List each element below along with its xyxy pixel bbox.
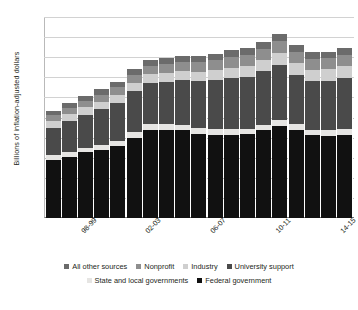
- x-axis-tick: [321, 219, 336, 259]
- legend-label: Industry: [191, 262, 217, 271]
- bar-segment: [289, 130, 304, 218]
- bar-segment: [240, 66, 255, 77]
- bar-segment: [240, 48, 255, 55]
- bar-segment: [110, 146, 125, 218]
- legend-swatch-icon: [183, 264, 188, 269]
- legend-row: State and local governmentsFederal gover…: [87, 276, 272, 285]
- bar-97-98[interactable]: [62, 17, 77, 218]
- bar-segment: [62, 157, 77, 219]
- bar-segment: [224, 50, 239, 57]
- stacked-bar-chart: Billions of inflation-adjusted dollars $…: [0, 0, 358, 310]
- legend-item[interactable]: Industry: [183, 262, 217, 271]
- bar-segment: [272, 34, 287, 41]
- bar-segment: [143, 83, 158, 124]
- legend-item[interactable]: All other sources: [64, 262, 127, 271]
- legend-item[interactable]: Nonprofit: [136, 262, 174, 271]
- x-axis-tick: [94, 219, 109, 259]
- bar-segment: [175, 71, 190, 80]
- bar-02-03[interactable]: [143, 17, 158, 218]
- bar-segment: [110, 87, 125, 95]
- bar-98-99[interactable]: [78, 17, 93, 218]
- bar-segment: [94, 150, 109, 218]
- bar-segment: [321, 58, 336, 69]
- legend-item[interactable]: State and local governments: [87, 276, 189, 285]
- bar-segment: [191, 81, 206, 128]
- x-axis-tick: [191, 219, 206, 259]
- legend-swatch-icon: [136, 264, 141, 269]
- bar-segment: [321, 69, 336, 80]
- bar-segment: [143, 130, 158, 218]
- bar-segment: [62, 114, 77, 121]
- bar-11-12[interactable]: [289, 17, 304, 218]
- bar-segment: [46, 128, 61, 156]
- bar-segment: [256, 42, 271, 49]
- bar-01-02[interactable]: [127, 17, 142, 218]
- bar-13-14[interactable]: [321, 17, 336, 218]
- bar-segment: [256, 71, 271, 124]
- x-axis-tick: [46, 219, 61, 259]
- x-axis-tick: 02-03: [143, 219, 158, 259]
- bar-segment: [337, 78, 352, 129]
- bar-segment: [175, 80, 190, 125]
- bar-segment: [78, 152, 93, 218]
- bar-04-05[interactable]: [175, 17, 190, 218]
- bar-segment: [208, 70, 223, 80]
- chart-legend: All other sourcesNonprofitIndustryUniver…: [0, 262, 358, 285]
- legend-swatch-icon: [197, 278, 202, 283]
- bar-05-06[interactable]: [191, 17, 206, 218]
- x-axis-tick: [256, 219, 271, 259]
- bar-08-09[interactable]: [240, 17, 255, 218]
- x-axis-tick: [175, 219, 190, 259]
- bar-segment: [321, 136, 336, 218]
- bar-07-08[interactable]: [224, 17, 239, 218]
- x-axis-tick: 98-99: [78, 219, 93, 259]
- bar-segment: [78, 101, 93, 108]
- bar-segment: [191, 62, 206, 72]
- bar-segment: [289, 52, 304, 63]
- bar-12-13[interactable]: [305, 17, 320, 218]
- bar-segment: [191, 134, 206, 218]
- legend-label: State and local governments: [95, 276, 189, 285]
- bar-00-01[interactable]: [110, 17, 125, 218]
- bar-segment: [159, 73, 174, 82]
- x-axis-tick: 14-15: [337, 219, 352, 259]
- x-axis-tick: [110, 219, 125, 259]
- bar-10-11[interactable]: [272, 17, 287, 218]
- bar-segment: [256, 60, 271, 71]
- bar-segment: [46, 160, 61, 218]
- bar-segment: [94, 109, 109, 145]
- bar-03-04[interactable]: [159, 17, 174, 218]
- bar-segment: [224, 135, 239, 218]
- bar-segment: [143, 66, 158, 74]
- bar-09-10[interactable]: [256, 17, 271, 218]
- bar-segment: [78, 115, 93, 148]
- bar-segment: [305, 59, 320, 70]
- legend-row: All other sourcesNonprofitIndustryUniver…: [64, 262, 294, 271]
- legend-label: All other sources: [72, 262, 127, 271]
- bar-14-15[interactable]: [337, 17, 352, 218]
- legend-swatch-icon: [227, 264, 232, 269]
- legend-label: University support: [235, 262, 294, 271]
- bar-segment: [175, 62, 190, 71]
- legend-label: Federal government: [205, 276, 271, 285]
- bar-segment: [94, 102, 109, 110]
- bar-segment: [272, 65, 287, 120]
- bar-segment: [256, 130, 271, 218]
- x-axis-tick: [224, 219, 239, 259]
- bar-segment: [321, 81, 336, 130]
- bar-segment: [337, 55, 352, 66]
- bar-96-97[interactable]: [46, 17, 61, 218]
- legend-label: Nonprofit: [144, 262, 174, 271]
- plot-area: [44, 17, 354, 218]
- legend-item[interactable]: Federal government: [197, 276, 271, 285]
- bar-segment: [191, 72, 206, 82]
- bar-segment: [110, 95, 125, 103]
- legend-item[interactable]: University support: [227, 262, 294, 271]
- bar-segment: [337, 66, 352, 78]
- bar-segment: [337, 48, 352, 55]
- bar-06-07[interactable]: [208, 17, 223, 218]
- bar-99-00[interactable]: [94, 17, 109, 218]
- bar-segment: [208, 80, 223, 129]
- bar-segment: [272, 41, 287, 53]
- x-axis-tick: [127, 219, 142, 259]
